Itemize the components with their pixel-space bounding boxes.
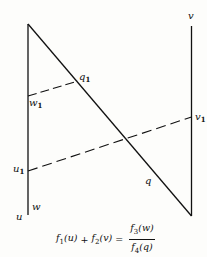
label-w1: w1 [29, 98, 42, 111]
diagonal-scale-line [28, 24, 192, 216]
formula-numerator: f3(w) [129, 222, 155, 240]
formula-equals: = [115, 234, 123, 245]
formula-fraction: f3(w) f4(q) [129, 222, 155, 257]
isopleth-w1-q1 [28, 81, 78, 96]
label-v: v [188, 11, 194, 21]
isopleth-u1-v1 [28, 117, 192, 171]
label-q1: q1 [79, 72, 90, 85]
formula-f2: f2(v) [92, 232, 113, 246]
formula-denominator: f4(q) [131, 240, 153, 257]
label-u1: u1 [13, 164, 24, 177]
label-w: w [32, 202, 41, 212]
label-v1: v1 [195, 112, 206, 125]
formula-f1: f1(u) [56, 232, 78, 246]
nomogram-formula: f1(u) + f2(v) = f3(w) f4(q) [56, 222, 155, 257]
label-q: q [145, 176, 151, 186]
label-u: u [16, 212, 22, 222]
formula-plus: + [81, 234, 89, 245]
